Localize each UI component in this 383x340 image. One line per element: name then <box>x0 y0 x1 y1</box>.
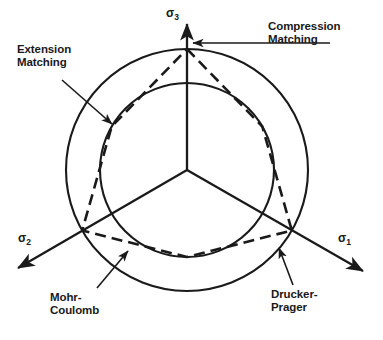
sigma3-symbol: σ <box>166 6 174 20</box>
drucker-prager-leader <box>279 248 293 285</box>
annotation-compression-matching: Compression Matching <box>268 20 340 46</box>
annotation-extension-matching: Extension Matching <box>17 43 71 69</box>
annotation-mohr-coulomb: Mohr- Coulomb <box>50 291 99 317</box>
sigma2-subscript: 2 <box>26 237 31 247</box>
sigma1-symbol: σ <box>338 231 346 245</box>
axis-label-sigma3: σ3 <box>166 6 179 20</box>
axis-label-sigma1: σ1 <box>338 231 351 245</box>
sigma1-axis <box>187 170 363 271</box>
deviatoric-plane-figure: Compression Matching Extension Matching … <box>0 0 383 340</box>
annotation-drucker-prager: Drucker- Prager <box>271 288 318 314</box>
axis-label-sigma2: σ2 <box>18 231 31 245</box>
sigma1-subscript: 1 <box>346 237 351 247</box>
extension-matching-leader <box>62 80 112 124</box>
sigma3-subscript: 3 <box>174 12 179 22</box>
sigma2-symbol: σ <box>18 231 26 245</box>
